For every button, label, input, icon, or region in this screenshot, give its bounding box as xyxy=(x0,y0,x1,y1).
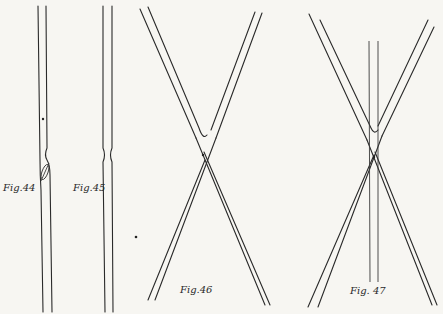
fig46-ur-inner xyxy=(216,13,262,138)
line-drawings xyxy=(0,0,443,314)
fig47-ll-outer xyxy=(318,136,382,307)
fig46-ur-outer xyxy=(211,12,255,130)
fig46-ll-inner xyxy=(148,160,205,300)
fig46-lr-inner xyxy=(204,152,270,305)
fig47-ur-inner xyxy=(382,27,434,136)
fig44-right-wall xyxy=(46,6,53,312)
fig47-lr-outer xyxy=(367,140,432,305)
fig45-drawing xyxy=(103,6,113,312)
fig44-drawing xyxy=(38,6,52,312)
fig46-ul-inner xyxy=(148,7,207,136)
fig46-caption: Fig.46 xyxy=(180,284,212,295)
fig47-center-dot xyxy=(373,156,375,158)
fig47-caption: Fig. 47 xyxy=(350,285,386,296)
figure-plate: Fig.44 Fig.45 Fig.46 Fig. 47 xyxy=(0,0,443,314)
fig47-vertical-left xyxy=(369,41,370,282)
stray-dot xyxy=(135,236,138,239)
fig47-ul-outer xyxy=(309,14,367,140)
fig44-caption: Fig.44 xyxy=(3,182,35,193)
fig45-caption: Fig.45 xyxy=(73,182,105,193)
fig45-right-wall xyxy=(111,6,114,312)
fig45-left-wall xyxy=(103,6,105,312)
fig46-ul-outer xyxy=(140,9,196,138)
fig47-ur-outer xyxy=(378,20,428,126)
fig46-drawing xyxy=(140,7,270,305)
fig47-lr-inner xyxy=(375,152,437,305)
fig46-center-dot xyxy=(202,154,204,156)
fig44-left-wall xyxy=(38,6,43,312)
fig44-dot xyxy=(42,118,44,120)
fig47-drawing xyxy=(308,14,437,307)
fig46-ll-outer xyxy=(155,138,216,300)
